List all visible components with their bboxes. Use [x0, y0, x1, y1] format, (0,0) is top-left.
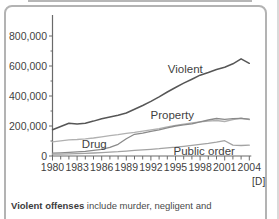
y-axis-label: 0	[41, 150, 47, 162]
series-label-public-order: Public order	[174, 145, 236, 157]
x-axis-label: 1995	[164, 161, 188, 173]
x-axis-label: 1983	[65, 161, 89, 173]
y-axis-label: 800,000	[9, 30, 47, 42]
figure-panel-screenshot: 0200,000400,000600,000800,00019801983198…	[0, 0, 279, 219]
figure-caption: Violent offenses include murder, neglige…	[11, 199, 263, 212]
crime-trend-line-chart: 0200,000400,000600,000800,00019801983198…	[0, 0, 279, 196]
x-axis-label: 1998	[188, 161, 212, 173]
x-axis-label: 1986	[90, 161, 114, 173]
caption-lead-term: Violent offenses	[11, 200, 84, 211]
figure-marker: [D]	[252, 176, 274, 187]
x-axis-label: 1980	[41, 161, 65, 173]
x-axis-label: 2001	[213, 161, 237, 173]
x-axis-label: 2004	[238, 161, 262, 173]
y-axis-label: 600,000	[9, 60, 47, 72]
series-label-drug: Drug	[82, 138, 107, 150]
y-axis-label: 200,000	[9, 120, 47, 132]
series-label-property: Property	[150, 109, 194, 121]
y-axis-label: 400,000	[9, 90, 47, 102]
series-label-violent: Violent	[168, 63, 204, 75]
caption-text: include murder, negligent and	[84, 200, 211, 211]
x-axis-label: 1989	[115, 161, 139, 173]
x-axis-label: 1992	[139, 161, 163, 173]
